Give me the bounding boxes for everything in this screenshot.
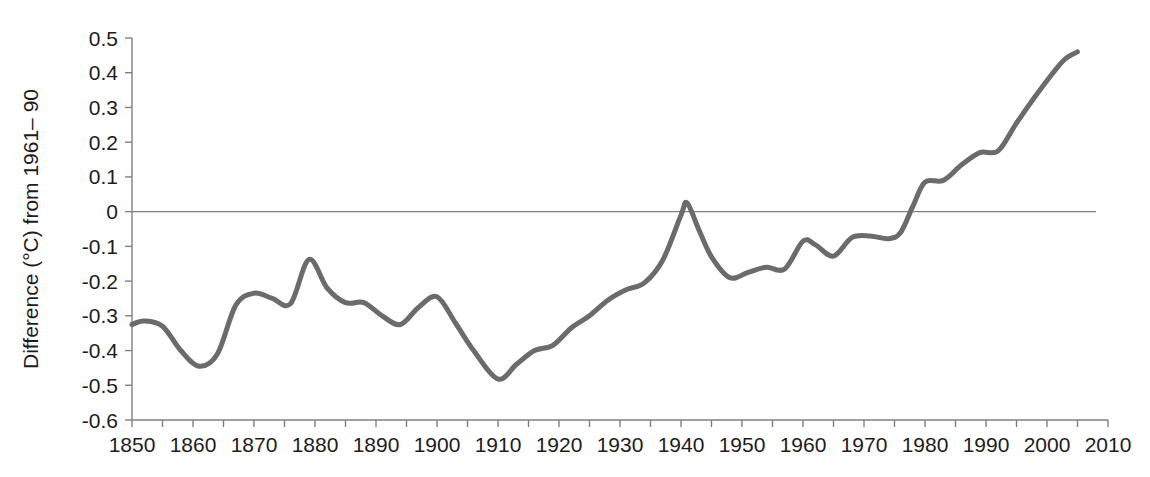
x-tick-label: 1970: [841, 433, 888, 456]
temperature-anomaly-line-chart: 0.50.40.30.20.10-0.1-0.2-0.3-0.4-0.5-0.6…: [0, 0, 1150, 477]
x-tick-label: 1990: [963, 433, 1010, 456]
x-tick-label: 1980: [902, 433, 949, 456]
chart-background: [0, 0, 1150, 477]
x-tick-label: 1960: [780, 433, 827, 456]
y-tick-label: 0.1: [89, 165, 118, 188]
y-tick-label: 0.2: [89, 131, 118, 154]
x-tick-label: 1930: [597, 433, 644, 456]
x-tick-label: 1890: [353, 433, 400, 456]
y-tick-label: 0.3: [89, 96, 118, 119]
y-tick-label: 0.5: [89, 27, 118, 50]
y-tick-label: 0: [106, 200, 118, 223]
x-tick-label: 1910: [475, 433, 522, 456]
y-axis-title: Difference (°C) from 1961– 90: [19, 89, 42, 369]
y-tick-label: -0.1: [82, 235, 118, 258]
x-tick-label: 1850: [109, 433, 156, 456]
y-tick-label: -0.2: [82, 270, 118, 293]
y-tick-label: -0.6: [82, 409, 118, 432]
x-tick-label: 1940: [658, 433, 705, 456]
x-tick-label: 2000: [1024, 433, 1071, 456]
chart-page: 0.50.40.30.20.10-0.1-0.2-0.3-0.4-0.5-0.6…: [0, 0, 1150, 477]
y-tick-label: -0.4: [82, 339, 119, 362]
x-tick-label: 1900: [414, 433, 461, 456]
y-tick-label: 0.4: [89, 61, 119, 84]
x-tick-label: 1860: [170, 433, 217, 456]
x-tick-label: 1870: [231, 433, 278, 456]
x-axis-tick-labels: 1850186018701880189019001910192019301940…: [109, 433, 1132, 456]
x-tick-label: 1950: [719, 433, 766, 456]
y-tick-label: -0.5: [82, 374, 118, 397]
x-tick-label: 2010: [1085, 433, 1132, 456]
x-tick-label: 1920: [536, 433, 583, 456]
x-tick-label: 1880: [292, 433, 339, 456]
y-tick-label: -0.3: [82, 304, 118, 327]
